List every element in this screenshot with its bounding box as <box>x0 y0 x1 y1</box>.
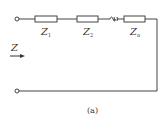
impedance-z2 <box>77 16 98 22</box>
impedance-zn <box>124 16 145 22</box>
impedance-z1 <box>35 16 57 22</box>
label-zn: Z n <box>129 26 141 38</box>
bottom-terminal <box>15 89 19 93</box>
svg-text:2: 2 <box>90 32 93 38</box>
figure-caption: (a) <box>87 106 98 115</box>
svg-text:1: 1 <box>48 32 51 38</box>
circuit-diagram: Z Z 1 Z 2 Z n (a) <box>0 0 166 119</box>
label-z1: Z 1 <box>40 26 51 38</box>
top-terminal <box>15 17 19 21</box>
svg-text:n: n <box>137 32 141 38</box>
label-z2: Z 2 <box>82 26 93 38</box>
arrow-icon <box>10 54 25 58</box>
input-impedance-label: Z <box>10 42 19 53</box>
break-symbol <box>110 17 118 21</box>
